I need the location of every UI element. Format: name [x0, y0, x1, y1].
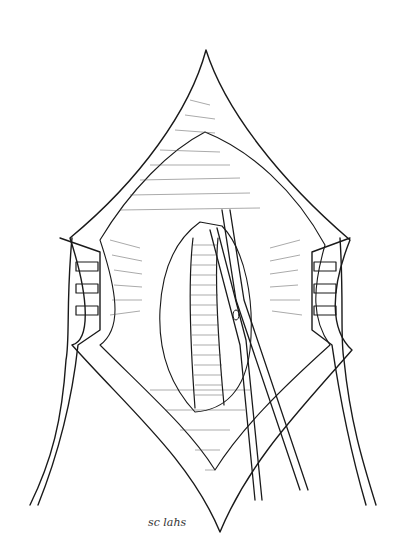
- incision-outline: [70, 50, 352, 532]
- right-retractor: [312, 238, 376, 505]
- surgical-illustration: [0, 0, 406, 559]
- cavity: [160, 222, 251, 412]
- forceps: [210, 210, 308, 500]
- left-retractor: [30, 238, 100, 505]
- artist-signature: sc lahs: [148, 516, 186, 529]
- wound-inner-edge: [100, 132, 330, 470]
